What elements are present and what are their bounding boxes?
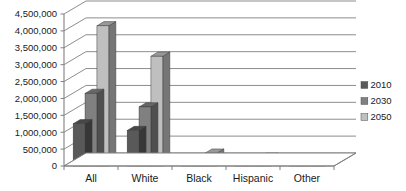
gridline-depth-connector — [64, 102, 86, 115]
bar-side-face — [109, 22, 116, 166]
gridline-depth-connector — [64, 1, 86, 14]
legend-label-2030[interactable]: 2030 — [371, 95, 392, 106]
gridline-depth-connector — [64, 85, 86, 98]
value-axis-label: 500,000 — [23, 144, 57, 155]
bar-side-face — [163, 52, 170, 166]
legend-swatch-2050[interactable] — [361, 114, 368, 121]
legend-label-2010[interactable]: 2010 — [371, 79, 392, 90]
chart-canvas: 0500,0001,000,0001,500,0002,000,0002,500… — [0, 0, 406, 191]
bar-series-group — [73, 22, 332, 166]
value-axis-label: 3,000,000 — [15, 59, 57, 70]
bar-chart: 0500,0001,000,0001,500,0002,000,0002,500… — [0, 0, 406, 191]
legend-label-2050[interactable]: 2050 — [371, 111, 392, 122]
value-axis-label: 1,500,000 — [15, 110, 57, 121]
value-axis-label: 1,000,000 — [15, 127, 57, 138]
value-axis-label: 4,500,000 — [15, 8, 57, 19]
category-axis-labels: AllWhiteBlackHispanicOther — [85, 172, 320, 184]
value-axis-label: 3,500,000 — [15, 42, 57, 53]
category-axis — [64, 153, 356, 170]
category-axis-label: All — [85, 172, 97, 184]
category-axis-label: Black — [186, 172, 212, 184]
legend-swatch-2030[interactable] — [361, 98, 368, 105]
category-axis-label: Other — [294, 172, 321, 184]
value-axis — [61, 14, 65, 166]
category-axis-label: White — [132, 172, 159, 184]
gridline-depth-connector — [64, 18, 86, 31]
legend-swatch-2010[interactable] — [361, 82, 368, 89]
legend: 201020302050 — [361, 79, 392, 122]
category-axis-label: Hispanic — [233, 172, 273, 184]
value-axis-label: 0 — [52, 160, 57, 171]
chart-floor — [64, 153, 356, 166]
gridline-depth-connector — [64, 69, 86, 82]
value-axis-label: 4,000,000 — [15, 25, 57, 36]
value-axis-label: 2,500,000 — [15, 76, 57, 87]
gridline-depth-connector — [64, 35, 86, 48]
value-axis-label: 2,000,000 — [15, 93, 57, 104]
value-axis-labels: 0500,0001,000,0001,500,0002,000,0002,500… — [15, 8, 57, 171]
gridline-depth-connector — [64, 52, 86, 65]
